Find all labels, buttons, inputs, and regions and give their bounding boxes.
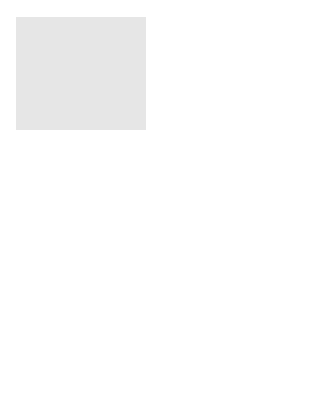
scaffold-diagram: [0, 0, 321, 413]
